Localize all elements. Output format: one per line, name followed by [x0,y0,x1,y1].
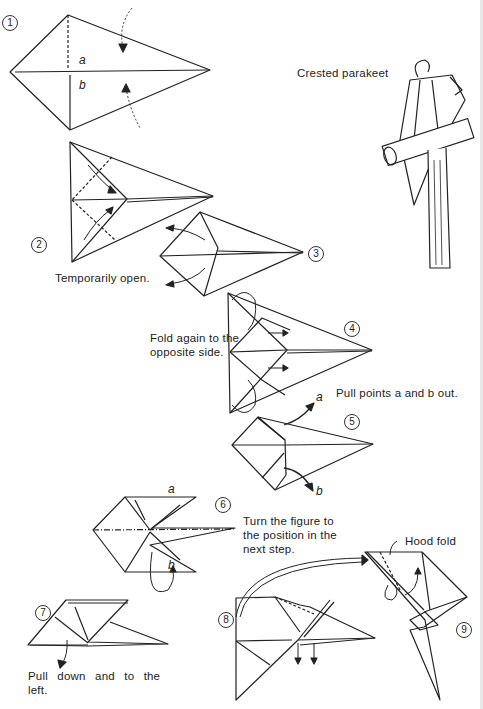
caption-temporarily-open: Temporarily open. [55,271,150,285]
step-number-3: 3 [308,246,324,262]
step5-point-b: b [316,484,323,498]
point-b-label: b [79,78,86,92]
title-crested-parakeet: Crested parakeet [297,66,388,80]
caption-fold-again-line2: opposite side. [150,345,224,359]
step1-kite [10,8,210,130]
step-number-7: 7 [35,605,51,621]
step-number-8: 8 [218,612,234,628]
parakeet-illustration [382,60,474,268]
step-number-5: 5 [344,414,360,430]
caption-turn-line1: Turn the figure to [243,514,334,528]
step-number-6: 6 [215,497,231,513]
caption-pull-points: Pull points a and b out. [336,386,458,400]
caption-hood-fold: Hood fold [405,534,456,548]
caption-pull-down-line1: Pull down and to the [28,669,160,683]
step6-point-a: a [168,482,175,496]
step6-point-b: b [168,558,175,572]
step5-point-a: a [316,390,323,404]
step6 [93,497,235,592]
step-number-2: 2 [31,237,47,253]
origami-diagrams [0,0,483,709]
step3 [160,212,303,296]
step9 [365,541,467,700]
step8 [236,555,375,700]
caption-turn-line3: next step. [243,542,295,556]
caption-pull-down-line2: left. [28,683,48,697]
step-number-1: 1 [2,15,18,31]
step-number-9: 9 [456,622,472,638]
caption-turn-line2: the position in the [243,528,337,542]
caption-fold-again-line1: Fold again to the [150,331,239,345]
step2 [70,142,213,262]
point-a-label: a [79,53,86,67]
step-number-4: 4 [344,321,360,337]
